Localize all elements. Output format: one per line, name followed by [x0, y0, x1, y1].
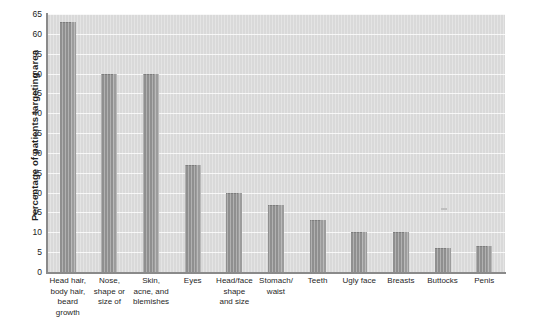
bar-shading — [279, 205, 284, 272]
bar-shading — [113, 74, 118, 272]
bar — [101, 74, 117, 272]
bar — [60, 22, 76, 272]
plot-area — [47, 14, 505, 272]
bar-shading — [362, 232, 367, 272]
bar — [435, 248, 451, 272]
x-category-label-line: acne, and — [124, 287, 178, 298]
x-category-label-line: Penis — [457, 276, 511, 287]
x-category-label-line: growth — [41, 308, 95, 319]
x-category-label: Penis — [457, 276, 511, 287]
bar-chart-figure: Percentage of patients targeting area 05… — [0, 0, 541, 333]
y-axis-line — [46, 13, 48, 273]
y-tick-label: 5 — [37, 247, 42, 257]
y-tick-label: 45 — [33, 88, 42, 98]
y-tick-label: 55 — [33, 49, 42, 59]
bar-shading — [154, 74, 159, 272]
y-tick-label: 40 — [33, 108, 42, 118]
bar-shading — [446, 248, 451, 272]
bar-shading — [196, 165, 201, 272]
bar — [393, 232, 409, 272]
scan-artifact — [441, 208, 447, 210]
bar — [143, 74, 159, 272]
bar — [310, 220, 326, 272]
gridline — [47, 34, 505, 35]
gridline — [47, 54, 505, 55]
bar — [476, 246, 492, 272]
gridline — [47, 14, 505, 15]
bar — [268, 205, 284, 272]
y-tick-label: 35 — [33, 128, 42, 138]
x-axis-line — [46, 272, 506, 274]
y-tick-label: 30 — [33, 148, 42, 158]
bar-shading — [404, 232, 409, 272]
x-category-label-line: waist — [249, 287, 303, 298]
bar-shading — [487, 246, 492, 272]
y-tick-label: 60 — [33, 29, 42, 39]
bar-shading — [321, 220, 326, 272]
y-tick-label: 0 — [37, 267, 42, 277]
x-category-label-line: blemishes — [124, 297, 178, 308]
bar — [226, 193, 242, 272]
bar-shading — [238, 193, 243, 272]
y-tick-label: 20 — [33, 188, 42, 198]
bar — [351, 232, 367, 272]
bar-shading — [71, 22, 76, 272]
bar — [185, 165, 201, 272]
x-category-label-line: and size — [208, 297, 262, 308]
y-tick-label: 65 — [33, 9, 42, 19]
y-tick-label: 15 — [33, 207, 42, 217]
y-tick-label: 50 — [33, 69, 42, 79]
x-axis-category-labels: Head hair,body hair,beardgrowthNose,shap… — [47, 276, 505, 332]
y-tick-label: 10 — [33, 227, 42, 237]
y-tick-label: 25 — [33, 168, 42, 178]
